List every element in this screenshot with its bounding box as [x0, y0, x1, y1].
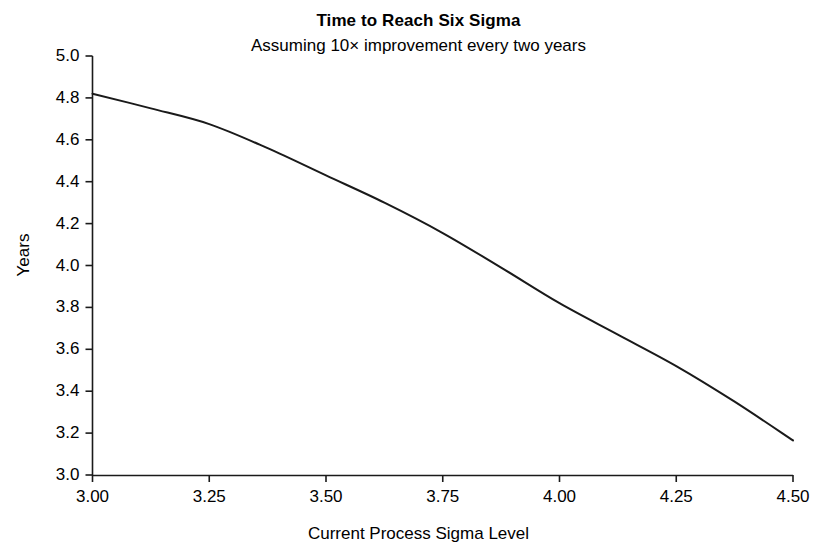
y-axis-tick-label: 4.8: [24, 89, 80, 106]
y-axis-tick-label: 5.0: [24, 47, 80, 64]
y-axis-tick-label: 4.6: [24, 131, 80, 148]
y-axis-tick-label: 3.8: [24, 298, 80, 315]
x-axis-tick-label: 3.00: [53, 488, 133, 505]
y-axis-tick-label: 3.6: [24, 340, 80, 357]
x-axis-tick-label: 4.50: [753, 488, 833, 505]
x-axis-tick-label: 3.75: [403, 488, 483, 505]
plot-surface: [0, 0, 837, 557]
y-axis-tick-label: 4.2: [24, 215, 80, 232]
x-axis-tick-label: 3.50: [286, 488, 366, 505]
y-axis-tick-label: 4.0: [24, 257, 80, 274]
y-axis-tick-label: 3.2: [24, 424, 80, 441]
axis-lines: [93, 56, 794, 476]
y-axis-ticks: [86, 56, 93, 475]
data-series-line: [93, 94, 794, 441]
x-axis-tick-label: 3.25: [169, 488, 249, 505]
y-axis-tick-label: 3.4: [24, 382, 80, 399]
y-axis-tick-label: 3.0: [24, 466, 80, 483]
chart-container: Time to Reach Six Sigma Assuming 10× imp…: [0, 0, 837, 557]
x-axis-tick-label: 4.00: [520, 488, 600, 505]
y-axis-tick-label: 4.4: [24, 173, 80, 190]
x-axis-tick-label: 4.25: [636, 488, 716, 505]
